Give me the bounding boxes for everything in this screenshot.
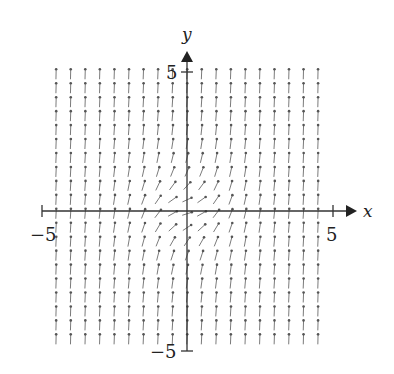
arrowhead-icon <box>273 124 276 127</box>
arrowhead-icon <box>288 152 291 155</box>
arrowhead-icon <box>273 96 276 99</box>
field-arrow <box>289 139 290 149</box>
arrowhead-icon <box>129 222 132 225</box>
field-arrow <box>229 223 232 232</box>
field-arrow <box>201 83 202 93</box>
arrowhead-icon <box>259 180 262 183</box>
arrowhead-icon <box>187 250 190 253</box>
arrowhead-icon <box>259 110 262 113</box>
arrowhead-icon <box>143 180 146 183</box>
field-arrow <box>128 139 129 149</box>
arrowhead-icon <box>174 181 177 184</box>
field-arrow <box>303 237 304 247</box>
arrowhead-icon <box>55 333 58 336</box>
arrowhead-icon <box>55 277 58 280</box>
arrowhead-icon <box>55 124 58 127</box>
arrowhead-icon <box>215 291 218 294</box>
field-arrow <box>244 237 246 247</box>
arrowhead-icon <box>259 319 262 322</box>
arrowhead-icon <box>143 249 146 252</box>
arrowhead-icon <box>143 263 146 266</box>
arrowhead-icon <box>215 68 218 71</box>
field-arrow <box>114 181 115 191</box>
arrowhead-icon <box>273 110 276 113</box>
arrowhead-icon <box>157 319 160 322</box>
field-arrow <box>158 306 159 316</box>
arrowhead-icon <box>215 333 218 336</box>
field-arrow <box>128 265 129 275</box>
arrowhead-icon <box>99 333 102 336</box>
field-arrow <box>128 237 130 247</box>
arrowhead-icon <box>288 166 291 169</box>
field-arrow <box>142 195 145 204</box>
field-arrow <box>129 306 130 316</box>
arrowhead-icon <box>142 110 145 113</box>
field-arrow <box>289 153 290 163</box>
arrowhead-icon <box>302 263 305 266</box>
field-arrow <box>274 251 275 261</box>
arrowhead-icon <box>302 319 305 322</box>
field-arrow <box>128 181 130 191</box>
arrowhead-icon <box>70 277 73 280</box>
arrowhead-icon <box>273 249 276 252</box>
arrowhead-icon <box>202 166 205 169</box>
field-arrow <box>216 111 217 121</box>
arrowhead-icon <box>200 68 203 71</box>
field-arrow <box>99 279 100 289</box>
arrowhead-icon <box>128 277 131 280</box>
field-arrow <box>114 251 115 261</box>
field-arrow <box>230 320 231 330</box>
arrowhead-icon <box>171 333 174 336</box>
arrowhead-icon <box>172 291 175 294</box>
x-tick-label-neg5: −5 <box>30 224 57 245</box>
field-arrow <box>114 195 115 205</box>
y-tick-label-neg5: −5 <box>150 341 177 362</box>
arrowhead-icon <box>259 96 262 99</box>
arrowhead-icon <box>143 277 146 280</box>
field-arrow <box>274 293 275 303</box>
field-arrow <box>128 125 129 135</box>
arrowhead-icon <box>84 277 87 280</box>
field-arrow <box>274 139 275 149</box>
arrowhead-icon <box>172 277 175 280</box>
field-arrow <box>200 167 204 176</box>
arrowhead-icon <box>69 96 72 99</box>
arrowhead-icon <box>172 263 175 266</box>
arrowhead-icon <box>259 235 262 238</box>
field-arrow <box>274 167 275 177</box>
arrowhead-icon <box>317 249 320 252</box>
arrowhead-icon <box>230 68 233 71</box>
field-arrow <box>114 306 115 316</box>
arrowhead-icon <box>273 277 276 280</box>
field-arrow <box>99 195 100 205</box>
arrowhead-icon <box>99 291 102 294</box>
arrowhead-icon <box>70 166 73 169</box>
arrowhead-icon <box>288 138 291 141</box>
field-arrow <box>85 251 86 261</box>
arrowhead-icon <box>245 222 248 225</box>
arrowhead-icon <box>70 180 73 183</box>
arrowhead-icon <box>302 291 305 294</box>
field-arrow <box>259 293 260 303</box>
arrowhead-icon <box>288 208 291 211</box>
arrowhead-icon <box>317 68 320 71</box>
arrowhead-icon <box>128 333 131 336</box>
arrowhead-icon <box>244 333 247 336</box>
arrowhead-icon <box>99 277 102 280</box>
field-arrow <box>244 251 245 261</box>
field-arrow <box>99 167 100 177</box>
y-tick-label-5: 5 <box>166 62 177 83</box>
arrowhead-icon <box>128 235 131 238</box>
field-arrow <box>157 279 158 289</box>
arrowhead-icon <box>84 180 87 183</box>
field-arrow <box>128 293 129 303</box>
arrowhead-icon <box>317 305 320 308</box>
arrowhead-icon <box>230 82 233 85</box>
vector-field-plot: x y −5 5 5 −5 <box>0 0 394 374</box>
field-arrow <box>230 111 231 121</box>
arrowhead-icon <box>99 235 102 238</box>
arrowhead-icon <box>113 277 116 280</box>
arrowhead-icon <box>142 68 145 71</box>
arrowhead-icon <box>128 291 131 294</box>
field-arrow <box>171 251 174 261</box>
